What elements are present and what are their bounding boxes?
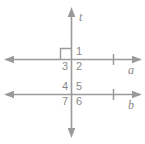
- line-b-arrowhead-left: [4, 91, 14, 99]
- parallel-line-b: [4, 89, 142, 100]
- right-angle-mark-icon: [61, 49, 72, 60]
- line-label-a: a: [128, 64, 134, 76]
- geometry-diagram: t a b 1 2 3 4 5 6 7: [0, 0, 145, 144]
- line-a-arrowhead-left: [4, 56, 14, 64]
- parallel-line-a: [4, 54, 142, 65]
- diagram-canvas: [0, 0, 145, 144]
- angle-label-7: 7: [62, 96, 68, 107]
- line-label-t: t: [79, 11, 82, 23]
- angle-label-6: 6: [76, 96, 82, 107]
- angle-label-3: 3: [62, 61, 68, 72]
- right-angle-square-path: [61, 49, 72, 60]
- angle-label-4: 4: [62, 81, 68, 92]
- angle-label-2: 2: [76, 61, 82, 72]
- angle-label-5: 5: [76, 81, 82, 92]
- line-t-arrowhead-bottom: [68, 128, 76, 138]
- line-label-b: b: [128, 99, 134, 111]
- angle-label-1: 1: [76, 46, 82, 57]
- line-t-arrowhead-top: [68, 7, 76, 17]
- transversal-line-t: [68, 7, 76, 138]
